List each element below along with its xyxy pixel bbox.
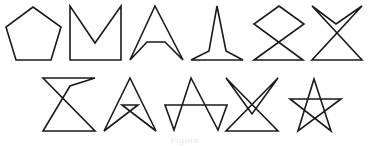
arrowhead-shape xyxy=(130,6,183,60)
diamond-crossed-shape xyxy=(254,6,304,60)
spire-shape xyxy=(191,6,243,60)
pentagon-shape xyxy=(6,7,61,60)
x-chevron-shape xyxy=(312,6,362,60)
zigzag-star-shape xyxy=(165,78,227,130)
crossed-v-shape xyxy=(226,78,278,131)
row-2 xyxy=(43,78,341,131)
arrow-crossbar-shape xyxy=(104,78,156,131)
m-notch-shape xyxy=(70,6,121,60)
shape-figure xyxy=(0,0,370,146)
figure-caption: Figure xyxy=(0,136,370,145)
row-1 xyxy=(6,6,362,60)
pentagram-shape xyxy=(290,79,341,131)
hourglass-shape xyxy=(43,78,95,131)
